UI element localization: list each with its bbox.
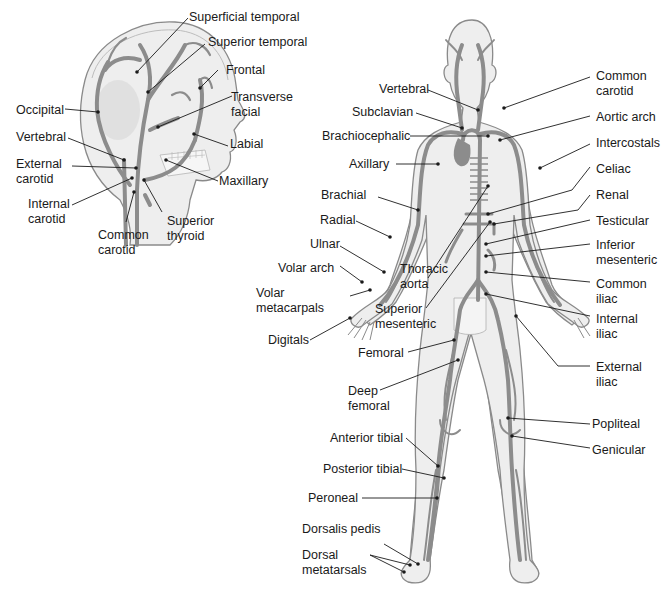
label-internal-carotid-2: carotid [28,212,66,227]
label-radial: Radial [320,213,355,228]
label-aortic-arch: Aortic arch [596,110,656,125]
label-volar-metacarpals-2: metacarpals [256,301,324,316]
label-maxillary: Maxillary [219,174,268,189]
label-deep-femoral-1: Deep [348,384,378,399]
label-anterior-tibial: Anterior tibial [330,431,403,446]
label-posterior-tibial: Posterior tibial [323,462,402,477]
label-axillary: Axillary [349,157,389,172]
label-external-iliac-2: iliac [596,375,618,390]
label-superior-temporal: Superior temporal [208,35,307,50]
label-common-carotid-head-1: Common [98,228,149,243]
label-volar-arch: Volar arch [278,261,334,276]
label-intercostals: Intercostals [596,136,660,151]
label-common-carotid-head-2: carotid [98,243,136,258]
label-external-carotid-2: carotid [16,172,54,187]
label-frontal: Frontal [226,63,265,78]
label-dorsal-metatarsals-1: Dorsal [302,548,338,563]
label-thoracic-aorta-2: aorta [400,277,429,292]
label-superior-mesenteric-2: mesenteric [375,317,436,332]
label-vertebral: Vertebral [379,82,429,97]
label-digitals: Digitals [268,333,309,348]
label-internal-iliac-1: Internal [596,312,638,327]
label-deep-femoral-2: femoral [348,399,390,414]
label-volar-metacarpals-1: Volar [256,286,285,301]
label-renal: Renal [596,188,629,203]
label-common-carotid-1: Common [596,69,647,84]
label-occipital: Occipital [16,103,64,118]
label-inferior-mesenteric-2: mesenteric [596,253,657,268]
label-internal-iliac-2: iliac [596,327,618,342]
label-femoral: Femoral [358,346,404,361]
label-brachiocephalic: Brachiocephalic [322,129,410,144]
label-genicular: Genicular [592,443,646,458]
label-internal-carotid-1: Internal [28,197,70,212]
label-celiac: Celiac [596,162,631,177]
label-thoracic-aorta-1: Thoracic [400,262,448,277]
label-transverse-facial-1: Transverse [231,90,293,105]
head-illustration [81,22,245,245]
label-common-iliac-2: iliac [596,292,618,307]
label-labial: Labial [230,137,263,152]
label-ulnar: Ulnar [310,237,340,252]
label-inferior-mesenteric-1: Inferior [596,238,635,253]
label-dorsalis-pedis: Dorsalis pedis [302,522,381,537]
label-external-iliac-1: External [596,360,642,375]
label-common-iliac-1: Common [596,277,647,292]
label-testicular: Testicular [596,214,649,229]
label-popliteal: Popliteal [592,417,640,432]
label-peroneal: Peroneal [308,491,358,506]
label-brachial: Brachial [321,188,366,203]
label-subclavian: Subclavian [352,105,413,120]
arterial-system-diagram: Superficial temporal Superior temporal F… [0,0,671,594]
label-vertebral-head: Vertebral [16,130,66,145]
label-transverse-facial-2: facial [231,105,260,120]
label-superior-thyroid-2: thyroid [167,229,205,244]
label-dorsal-metatarsals-2: metatarsals [302,563,367,578]
label-superior-mesenteric-1: Superior [375,302,422,317]
label-external-carotid-1: External [16,157,62,172]
label-superficial-temporal: Superficial temporal [189,10,299,25]
label-common-carotid-2: carotid [596,84,634,99]
label-superior-thyroid-1: Superior [167,214,214,229]
